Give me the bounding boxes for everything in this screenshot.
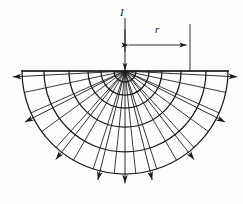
radius-label: r: [155, 24, 159, 35]
current-label: I: [120, 7, 124, 18]
flow-line: [125, 71, 219, 113]
figure-container: I r: [0, 0, 243, 204]
flow-line: [56, 71, 125, 148]
grounding-electrode-diagram: [0, 0, 243, 204]
flow-line: [31, 71, 125, 113]
flow-line: [125, 71, 194, 148]
